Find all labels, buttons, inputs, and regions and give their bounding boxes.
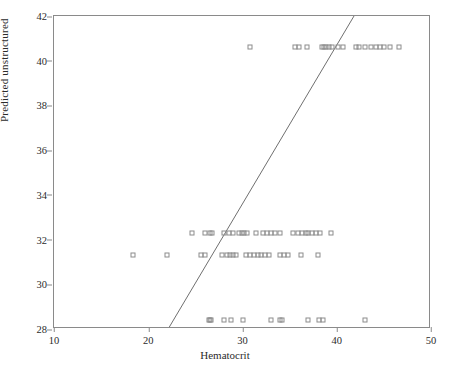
data-point: [221, 230, 226, 235]
y-tick-mark: [47, 240, 52, 241]
y-tick-mark: [47, 150, 52, 151]
x-tick-mark: [243, 327, 244, 332]
x-tick-mark: [431, 327, 432, 332]
data-point: [363, 45, 368, 50]
data-point: [253, 230, 258, 235]
x-tick-label: 30: [237, 327, 248, 346]
data-point: [357, 45, 362, 50]
data-point: [304, 45, 309, 50]
data-point: [202, 253, 207, 258]
x-tick-mark: [337, 327, 338, 332]
y-tick-mark: [47, 105, 52, 106]
data-point: [285, 253, 290, 258]
data-point: [131, 253, 136, 258]
y-tick-mark: [47, 195, 52, 196]
data-point: [219, 253, 224, 258]
x-tick-mark: [148, 327, 149, 332]
data-point: [268, 318, 273, 323]
data-point: [315, 253, 320, 258]
data-point: [189, 230, 194, 235]
data-point: [272, 230, 277, 235]
data-point: [248, 45, 253, 50]
data-point: [229, 318, 234, 323]
data-point: [280, 318, 285, 323]
y-tick-label: 36: [37, 145, 55, 156]
y-tick-label: 40: [37, 55, 55, 66]
y-tick-mark: [47, 284, 52, 285]
data-point: [202, 230, 207, 235]
data-point: [266, 253, 271, 258]
data-point: [396, 45, 401, 50]
data-point: [209, 318, 214, 323]
data-point: [388, 45, 393, 50]
data-point: [381, 45, 386, 50]
data-point: [335, 45, 340, 50]
data-point: [341, 45, 346, 50]
data-point: [298, 253, 303, 258]
data-point: [317, 230, 322, 235]
data-point: [363, 318, 368, 323]
x-tick-label: 40: [332, 327, 343, 346]
x-tick-mark: [54, 327, 55, 332]
y-tick-label: 34: [37, 189, 55, 200]
y-tick-label: 30: [37, 279, 55, 290]
data-point: [221, 318, 226, 323]
y-tick-label: 38: [37, 100, 55, 111]
data-point: [329, 230, 334, 235]
x-tick-label: 10: [49, 327, 60, 346]
x-tick-label: 20: [143, 327, 154, 346]
data-point: [306, 318, 311, 323]
data-point: [330, 45, 335, 50]
y-tick-mark: [47, 61, 52, 62]
data-point: [297, 45, 302, 50]
x-tick-label: 50: [426, 327, 437, 346]
data-point: [231, 230, 236, 235]
y-tick-mark: [47, 16, 52, 17]
y-tick-label: 32: [37, 234, 55, 245]
data-point: [210, 230, 215, 235]
data-point: [165, 253, 170, 258]
scatter-plot-figure: Predicted unstructured 2830323436384042 …: [0, 0, 450, 368]
data-point: [320, 318, 325, 323]
data-point: [240, 318, 245, 323]
data-point: [245, 230, 250, 235]
data-point: [278, 230, 283, 235]
data-point: [233, 253, 238, 258]
plot-area: 2830323436384042 1020304050: [53, 15, 430, 328]
y-tick-label: 42: [37, 11, 55, 22]
y-axis-label: Predicted unstructured: [0, 0, 10, 122]
data-point: [368, 45, 373, 50]
identity-reference-line: [54, 16, 429, 327]
x-axis-label: Hematocrit: [0, 349, 450, 361]
